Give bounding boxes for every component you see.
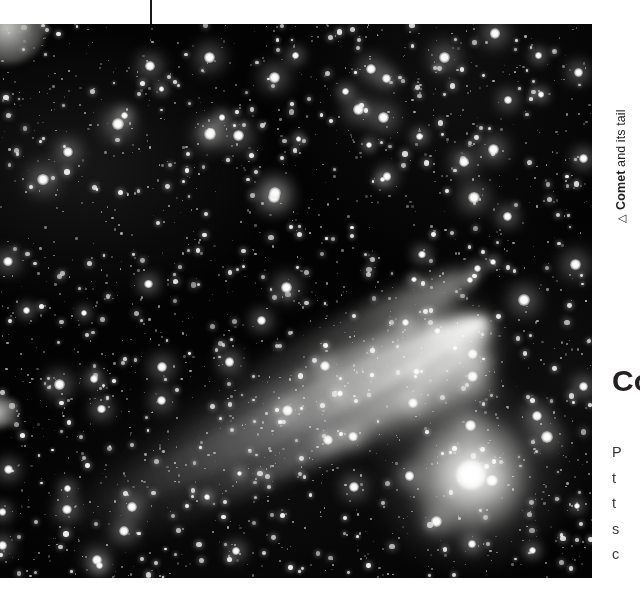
caption-text: Comet and its tail bbox=[614, 109, 628, 209]
cut-off-article-column: Co P t t s c bbox=[592, 366, 640, 580]
right-margin-column: △ Comet and its tail Co P t t s c bbox=[592, 0, 640, 603]
body-line: P bbox=[612, 440, 640, 466]
body-line: s bbox=[612, 517, 640, 543]
body-line: c bbox=[612, 542, 640, 568]
comet-nucleus bbox=[456, 460, 486, 490]
comet-photograph bbox=[0, 24, 592, 578]
body-line: t bbox=[612, 466, 640, 492]
registration-mark bbox=[150, 0, 152, 26]
photo-caption: △ Comet and its tail bbox=[592, 0, 640, 230]
caption-rest-text: and its tail bbox=[614, 109, 628, 170]
page-canvas: △ Comet and its tail Co P t t s c bbox=[0, 0, 640, 603]
caption-bold-term: Comet bbox=[614, 170, 628, 209]
article-body: P t t s c bbox=[612, 440, 640, 580]
caption-triangle-icon: △ bbox=[616, 215, 627, 223]
article-heading: Co bbox=[612, 366, 640, 436]
body-line: t bbox=[612, 491, 640, 517]
